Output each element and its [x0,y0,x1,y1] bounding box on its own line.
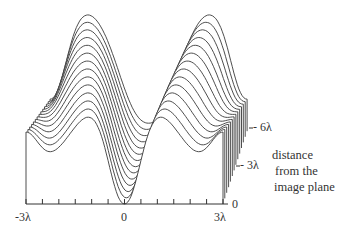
caption-line-2: from the [272,163,335,179]
waterfall-plot [0,0,358,238]
depth-axis-caption: distance from the image plane [272,147,335,195]
x-tick-label-center: 0 [121,211,127,224]
caption-line-3: image plane [272,179,335,195]
depth-tick-label-3: - 3λ [240,159,259,172]
caption-line-1: distance [272,147,335,163]
intensity-curves [26,15,247,204]
depth-tick-label-6: - 6λ [253,121,272,134]
x-tick-label-right: 3λ [214,211,226,224]
depth-tick-label-0: 0 [232,198,238,211]
x-tick-label-left: -3λ [15,211,31,224]
